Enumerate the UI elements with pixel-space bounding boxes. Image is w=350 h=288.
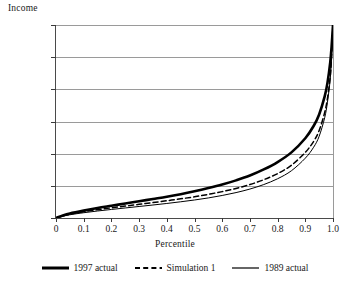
legend-item: 1997 actual xyxy=(42,263,118,273)
legend-label: Simulation 1 xyxy=(167,263,216,273)
legend-label: 1989 actual xyxy=(264,263,308,273)
x-tick-label: 0.1 xyxy=(69,224,99,234)
chart-legend: 1997 actualSimulation 11989 actual xyxy=(0,263,350,273)
x-tick xyxy=(195,218,196,222)
legend-item: 1989 actual xyxy=(232,263,308,273)
plot-area: 05,00010,00015,00020,00025,00030,000 00.… xyxy=(56,25,333,218)
series-line xyxy=(56,25,333,218)
x-tick xyxy=(305,218,306,222)
x-tick-label: 0.3 xyxy=(124,224,154,234)
series-line xyxy=(56,25,333,218)
legend-swatch-dashed-icon xyxy=(135,263,162,273)
x-tick-label: 0.2 xyxy=(96,224,126,234)
x-tick xyxy=(56,218,57,222)
series-curves xyxy=(56,25,333,218)
x-tick-label: 0.4 xyxy=(152,224,182,234)
x-tick xyxy=(167,218,168,222)
x-tick xyxy=(278,218,279,222)
x-tick-label: 0.5 xyxy=(180,224,210,234)
legend-swatch-solid-thick-icon xyxy=(42,263,69,273)
x-tick xyxy=(333,218,334,222)
x-tick xyxy=(222,218,223,222)
x-tick-label: 0.7 xyxy=(235,224,265,234)
plot-border-right xyxy=(333,25,334,219)
x-axis-title: Percentile xyxy=(0,239,350,249)
x-tick xyxy=(139,218,140,222)
legend-label: 1997 actual xyxy=(74,263,118,273)
series-line xyxy=(56,25,333,218)
x-tick xyxy=(84,218,85,222)
income-percentile-chart: Income 05,00010,00015,00020,00025,00030,… xyxy=(0,0,350,288)
legend-item: Simulation 1 xyxy=(135,263,216,273)
legend-swatch-solid-thin-icon xyxy=(232,263,259,273)
x-tick-label: 0.8 xyxy=(263,224,293,234)
x-tick-label: 0 xyxy=(41,224,71,234)
x-tick xyxy=(111,218,112,222)
x-tick-label: 0.6 xyxy=(207,224,237,234)
y-axis-title: Income xyxy=(8,3,38,13)
x-tick-label: 0.9 xyxy=(290,224,320,234)
x-tick xyxy=(250,218,251,222)
x-tick-label: 1.0 xyxy=(318,224,348,234)
